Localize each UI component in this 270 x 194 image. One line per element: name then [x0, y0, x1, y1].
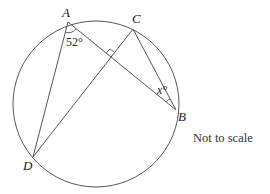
circle-diagram: A C B D 52° x°: [0, 0, 270, 194]
segment-cb: [133, 29, 176, 110]
segment-ad: [33, 22, 68, 157]
not-to-scale-note: Not to scale: [193, 131, 253, 146]
point-label-d: D: [22, 158, 33, 173]
angle-arc-a: [65, 29, 76, 33]
point-label-c: C: [132, 11, 141, 26]
point-label-b: B: [178, 109, 186, 124]
angle-arc-b: [166, 99, 170, 102]
segment-cd: [33, 29, 133, 157]
angle-label-a: 52°: [66, 35, 83, 49]
point-label-a: A: [61, 5, 70, 20]
circle: [13, 21, 179, 187]
right-angle-marker: [106, 49, 114, 53]
angle-label-b: x°: [156, 83, 167, 97]
